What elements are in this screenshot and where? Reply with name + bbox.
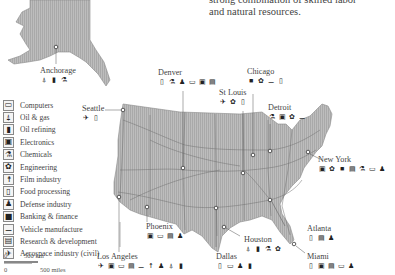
vehicle-manufacture-icon: ⚊ xyxy=(267,77,275,85)
city-seattle: Seattle ✈ ▯ xyxy=(82,104,104,122)
city-industry-icons: ▣ ▭ ▤ ♟ xyxy=(146,232,184,240)
chemicals-icon: ⚗ xyxy=(60,76,68,84)
city-st-louis: St Louis ✈ ✿ ▯ xyxy=(219,88,247,106)
banking-finance-icon: ■ xyxy=(3,211,14,222)
computer-icon: ▭ xyxy=(117,262,125,270)
newyork-marker xyxy=(306,150,310,154)
electronics-icon: ▣ xyxy=(317,262,325,270)
oil-gas-icon: ⍋ xyxy=(3,112,14,123)
city-denver: Denver ▯ ⚗ ♟ ▭ ▣ ▤ xyxy=(158,68,216,86)
food-processing-icon: ▯ xyxy=(307,234,315,242)
chemicals-icon: ⚗ xyxy=(358,165,366,173)
scale-km-zero: 0 xyxy=(4,252,7,259)
miami-marker xyxy=(292,242,296,246)
city-industry-icons: ▣ ✿ ■ ▤ ⚗ ▭ ♟ xyxy=(318,165,386,173)
city-new-york: New York ▣ ✿ ■ ▤ ⚗ ▭ ♟ xyxy=(318,155,386,173)
aerospace-icon: ✈ xyxy=(82,114,90,122)
engineering-icon: ✿ xyxy=(288,113,296,121)
city-los-angeles: Los Angeles ✈ ▣ ▭ ▤ ⚊ ☨ ♟ ⍋ ▮ xyxy=(97,252,185,270)
oil-refining-icon: ▮ xyxy=(177,262,185,270)
defense-industry-icon: ♟ xyxy=(176,232,184,240)
vehicle-manufacture-icon: ⚊ xyxy=(298,113,306,121)
oil-gas-icon: ⍋ xyxy=(167,262,175,270)
industry-legend: ▭Computers ⍋Oil & gas ▮Oil refining ▣Ele… xyxy=(3,99,113,260)
city-detroit: Detroit ⚗ ▣ ✿ ⚊ xyxy=(268,103,306,121)
aerospace-icon: ✈ xyxy=(97,262,105,270)
research-development-icon: ▤ xyxy=(127,262,135,270)
food-processing-icon: ▯ xyxy=(307,262,315,270)
city-atlanta: Atlanta ▯ ▤ ♟ xyxy=(307,224,335,242)
defense-industry-icon: ♟ xyxy=(178,78,186,86)
electronics-icon: ▣ xyxy=(278,113,286,121)
research-development-icon: ▤ xyxy=(208,78,216,86)
phoenix-marker xyxy=(145,205,149,209)
oil-refining-icon: ▮ xyxy=(246,262,254,270)
city-industry-icons: ⍋ ▮ ⚗ xyxy=(40,76,76,84)
food-processing-icon: ▯ xyxy=(3,186,14,197)
food-processing-icon: ▯ xyxy=(92,114,100,122)
engineering-icon: ✿ xyxy=(3,162,14,173)
atlanta-marker xyxy=(268,198,272,202)
research-development-icon: ▤ xyxy=(348,165,356,173)
engineering-icon: ✿ xyxy=(274,245,282,253)
engineering-icon: ✿ xyxy=(257,77,265,85)
chemicals-icon: ⚗ xyxy=(3,149,14,160)
computer-icon: ▭ xyxy=(226,262,234,270)
banking-finance-icon: ■ xyxy=(338,165,346,173)
electronics-icon: ▣ xyxy=(146,232,154,240)
vehicle-manufacture-icon: ⚊ xyxy=(3,224,14,235)
computer-icon: ▭ xyxy=(3,100,14,111)
oil-refining-icon: ▮ xyxy=(50,76,58,84)
computer-icon: ▭ xyxy=(156,232,164,240)
city-anchorage: Anchorage ⍋ ▮ ⚗ xyxy=(40,66,76,84)
research-development-icon: ▤ xyxy=(166,232,174,240)
computer-icon: ▭ xyxy=(337,262,345,270)
legend-item-vehicle-manufacture: ⚊Vehicle manufacture xyxy=(3,223,113,235)
defense-industry-icon: ♟ xyxy=(157,262,165,270)
engineering-icon: ✿ xyxy=(229,98,237,106)
chemicals-icon: ⚗ xyxy=(264,245,272,253)
legend-item-oil-refining: ▮Oil refining xyxy=(3,124,113,136)
city-industry-icons: ✈ ▣ ▭ ▤ ⚊ ☨ ♟ ⍋ ▮ xyxy=(97,262,185,270)
scale-mi-zero: 0 xyxy=(4,266,7,273)
scale-km-label: 500 km xyxy=(24,252,44,259)
city-industry-icons: ⚗ ▣ ✿ ⚊ xyxy=(268,113,306,121)
detroit-marker xyxy=(268,149,272,153)
legend-item-film-industry: ☨Film industry xyxy=(3,173,113,185)
city-chicago: Chicago ■ ✿ ⚊ ▯ xyxy=(247,67,285,85)
scale-bar: 0 500 km 0 500 miles xyxy=(4,252,84,274)
legend-item-chemicals: ⚗Chemicals xyxy=(3,149,113,161)
city-houston: Houston ⍋ ▮ ⚗ ✿ xyxy=(244,235,282,253)
defense-industry-icon: ♟ xyxy=(347,262,355,270)
computer-icon: ▭ xyxy=(368,165,376,173)
film-industry-icon: ☨ xyxy=(3,174,14,185)
food-processing-icon: ▯ xyxy=(239,98,247,106)
food-processing-icon: ▯ xyxy=(216,262,224,270)
film-industry-icon: ☨ xyxy=(147,262,155,270)
food-processing-icon: ▯ xyxy=(277,77,285,85)
city-industry-icons: ▯ ⚗ ♟ ▭ ▣ ▤ xyxy=(158,78,216,86)
city-phoenix: Phoenix ▣ ▭ ▤ ♟ xyxy=(146,222,184,240)
defense-industry-icon: ♟ xyxy=(327,234,335,242)
legend-item-research-development: ▤Research & development xyxy=(3,235,113,247)
legend-item-defense-industry: ♟Defense industry xyxy=(3,198,113,210)
aerospace-icon: ✈ xyxy=(219,98,227,106)
city-dallas: Dallas ▯ ▭ ♟ ▮ xyxy=(216,252,254,270)
chicago-marker xyxy=(251,153,255,157)
legend-item-engineering: ✿Engineering xyxy=(3,161,113,173)
city-industry-icons: ▯ ▣ ▤ ▭ ♟ xyxy=(307,262,355,270)
legend-item-banking-finance: ■Banking & finance xyxy=(3,211,113,223)
scale-bar-line-miles xyxy=(4,263,32,264)
food-processing-icon: ▯ xyxy=(158,78,166,86)
city-industry-icons: ✈ ✿ ▯ xyxy=(219,98,247,106)
defense-industry-icon: ♟ xyxy=(3,199,14,210)
denver-marker xyxy=(181,166,185,170)
vehicle-manufacture-icon: ⚊ xyxy=(137,262,145,270)
oil-refining-icon: ▮ xyxy=(3,124,14,135)
houston-marker xyxy=(222,225,226,229)
oil-gas-icon: ⍋ xyxy=(40,76,48,84)
city-industry-icons: ■ ✿ ⚊ ▯ xyxy=(247,77,285,85)
research-development-icon: ▤ xyxy=(327,262,335,270)
seattle-marker xyxy=(121,108,125,112)
city-industry-icons: ✈ ▯ xyxy=(82,114,104,122)
